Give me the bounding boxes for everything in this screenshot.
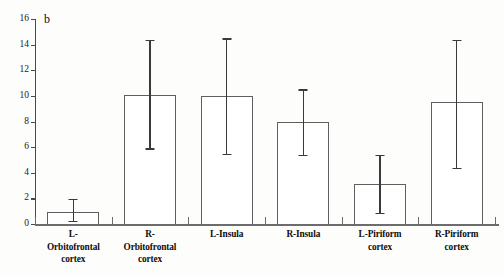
error-bar: [379, 155, 380, 213]
category-separator: [188, 217, 189, 225]
error-cap-upper: [69, 199, 78, 200]
x-axis-label-line: cortex: [35, 253, 112, 266]
x-axis-label: R-Insula: [265, 228, 342, 241]
category-separator: [418, 217, 419, 225]
category-separator: [495, 217, 496, 225]
category-separator: [342, 217, 343, 225]
error-cap-upper: [376, 155, 385, 156]
y-tick-mark: [31, 147, 35, 148]
error-bar: [456, 40, 457, 168]
x-axis-label-line: R-: [112, 228, 189, 241]
y-axis-line: [35, 19, 36, 225]
error-bar: [226, 38, 227, 153]
bar-chart-figure: b Activation (% change x no. of pixels) …: [0, 0, 504, 276]
y-tick-label: 16: [20, 14, 30, 24]
category-separator: [35, 217, 36, 225]
x-axis-label: L-Piriformcortex: [342, 228, 419, 253]
error-cap-lower: [146, 148, 155, 149]
y-tick-label: 2: [24, 194, 29, 204]
x-axis-label-line: R-Piriform: [418, 228, 495, 241]
x-axis-label-line: R-Insula: [265, 228, 342, 241]
error-cap-upper: [222, 38, 231, 39]
error-cap-lower: [452, 168, 461, 169]
y-tick-label: 12: [20, 66, 30, 76]
error-cap-upper: [299, 89, 308, 90]
error-cap-upper: [146, 40, 155, 41]
error-cap-lower: [299, 155, 308, 156]
x-axis-label-line: cortex: [342, 241, 419, 254]
y-tick-label: 0: [24, 219, 29, 229]
x-axis-line: [35, 224, 499, 226]
y-tick-label: 4: [24, 168, 29, 178]
x-axis-label-line: L-Insula: [188, 228, 265, 241]
x-axis-label: L-Insula: [188, 228, 265, 241]
category-separator: [112, 217, 113, 225]
y-tick-mark: [31, 198, 35, 199]
x-axis-label: L-Orbitofrontalcortex: [35, 228, 112, 266]
y-tick-mark: [31, 19, 35, 20]
x-axis-label-line: cortex: [418, 241, 495, 254]
error-cap-lower: [222, 154, 231, 155]
error-cap-upper: [452, 40, 461, 41]
error-cap-lower: [376, 213, 385, 214]
y-tick-label: 14: [20, 40, 30, 50]
x-axis-label-line: L-: [35, 228, 112, 241]
x-axis-label-line: cortex: [112, 253, 189, 266]
error-bar: [149, 40, 150, 149]
plot-area: 0246810121416: [35, 19, 495, 224]
x-axis-label-line: Orbitofrontal: [112, 241, 189, 254]
x-axis-label: R-Orbitofrontalcortex: [112, 228, 189, 266]
y-tick-mark: [31, 70, 35, 71]
error-bar: [303, 89, 304, 154]
x-axis-label-line: Orbitofrontal: [35, 241, 112, 254]
x-axis-label-line: L-Piriform: [342, 228, 419, 241]
y-tick-mark: [31, 45, 35, 46]
category-separator: [265, 217, 266, 225]
error-cap-lower: [69, 221, 78, 222]
y-tick-label: 10: [20, 91, 30, 101]
y-tick-label: 6: [24, 142, 29, 152]
y-tick-mark: [31, 173, 35, 174]
error-bar: [73, 199, 74, 221]
x-axis-label: R-Piriformcortex: [418, 228, 495, 253]
y-tick-mark: [31, 122, 35, 123]
y-tick-label: 8: [24, 117, 29, 127]
y-tick-mark: [31, 96, 35, 97]
